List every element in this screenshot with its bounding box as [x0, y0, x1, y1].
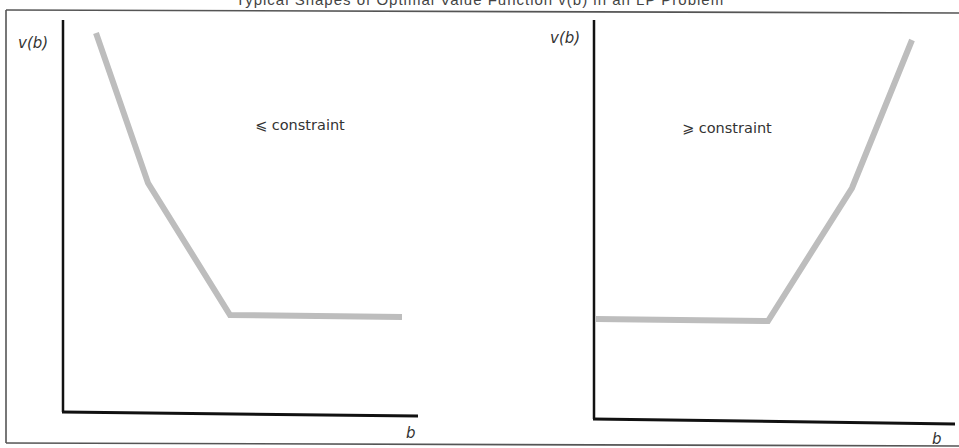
right-x-label: b: [932, 430, 942, 448]
left-annotation: ⩽ constraint: [255, 117, 345, 133]
figure-canvas: v(b) b ⩽ constraint v(b) b ⩾ constraint: [0, 0, 959, 448]
left-y-label: v(b): [18, 34, 48, 52]
left-x-label: b: [406, 424, 416, 442]
right-y-label: v(b): [550, 29, 580, 47]
outer-frame: [6, 10, 959, 446]
right-curve-geq: [596, 40, 912, 321]
right-chart: v(b) b ⩾ constraint: [550, 20, 955, 448]
right-x-axis: [593, 419, 955, 424]
left-chart: v(b) b ⩽ constraint: [18, 20, 418, 442]
left-x-axis: [62, 412, 418, 416]
left-curve-leq: [96, 33, 402, 317]
right-annotation: ⩾ constraint: [682, 120, 772, 136]
